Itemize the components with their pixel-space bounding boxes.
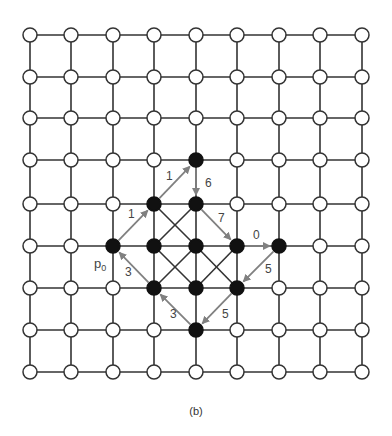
open-node bbox=[189, 70, 203, 84]
filled-node bbox=[189, 153, 203, 167]
open-node bbox=[64, 197, 78, 211]
open-node bbox=[355, 281, 369, 295]
open-node bbox=[355, 28, 369, 42]
open-node bbox=[355, 70, 369, 84]
open-node bbox=[106, 197, 120, 211]
open-node bbox=[64, 153, 78, 167]
open-node bbox=[23, 28, 37, 42]
open-node bbox=[355, 239, 369, 253]
filled-node bbox=[147, 281, 161, 295]
open-node bbox=[355, 111, 369, 125]
open-node bbox=[189, 365, 203, 379]
open-node bbox=[23, 197, 37, 211]
open-node bbox=[147, 70, 161, 84]
open-node bbox=[189, 28, 203, 42]
direction-label: 6 bbox=[205, 176, 212, 190]
filled-node bbox=[106, 239, 120, 253]
open-node bbox=[230, 323, 244, 337]
filled-node bbox=[230, 239, 244, 253]
chain-code-grid-diagram: 116705533p0 bbox=[0, 0, 392, 436]
direction-label: 5 bbox=[222, 307, 229, 321]
open-node bbox=[313, 239, 327, 253]
open-node bbox=[272, 197, 286, 211]
open-node bbox=[355, 153, 369, 167]
open-node bbox=[23, 239, 37, 253]
open-node bbox=[355, 323, 369, 337]
filled-node bbox=[147, 239, 161, 253]
open-node bbox=[147, 111, 161, 125]
open-node bbox=[313, 153, 327, 167]
open-node bbox=[313, 365, 327, 379]
open-node bbox=[230, 365, 244, 379]
open-node bbox=[23, 70, 37, 84]
open-node bbox=[106, 70, 120, 84]
open-node bbox=[23, 153, 37, 167]
open-node bbox=[23, 323, 37, 337]
filled-node bbox=[189, 323, 203, 337]
open-node bbox=[64, 365, 78, 379]
open-node bbox=[64, 111, 78, 125]
open-node bbox=[64, 281, 78, 295]
open-node bbox=[272, 281, 286, 295]
open-node bbox=[230, 153, 244, 167]
chain-arrow bbox=[202, 210, 231, 240]
filled-node bbox=[189, 239, 203, 253]
open-node bbox=[23, 281, 37, 295]
open-node bbox=[272, 365, 286, 379]
open-node bbox=[106, 153, 120, 167]
open-node bbox=[106, 281, 120, 295]
filled-node bbox=[189, 281, 203, 295]
open-node bbox=[23, 111, 37, 125]
open-node bbox=[147, 28, 161, 42]
open-node bbox=[230, 70, 244, 84]
filled-node bbox=[230, 281, 244, 295]
figure-caption: (b) bbox=[0, 405, 392, 417]
direction-label: 3 bbox=[170, 307, 177, 321]
open-node bbox=[189, 111, 203, 125]
direction-label: 3 bbox=[125, 265, 132, 279]
open-node bbox=[230, 28, 244, 42]
direction-label: 7 bbox=[218, 211, 225, 225]
open-node bbox=[106, 28, 120, 42]
direction-label: 0 bbox=[253, 228, 260, 242]
open-node bbox=[313, 70, 327, 84]
chain-arrow bbox=[160, 167, 190, 199]
open-node bbox=[313, 281, 327, 295]
open-node bbox=[272, 153, 286, 167]
open-node bbox=[313, 323, 327, 337]
open-node bbox=[230, 111, 244, 125]
open-node bbox=[64, 239, 78, 253]
filled-node bbox=[189, 197, 203, 211]
open-node bbox=[355, 365, 369, 379]
open-node bbox=[106, 111, 120, 125]
open-node bbox=[313, 197, 327, 211]
open-node bbox=[147, 153, 161, 167]
open-node bbox=[64, 28, 78, 42]
open-node bbox=[64, 70, 78, 84]
filled-node bbox=[147, 197, 161, 211]
open-node bbox=[147, 365, 161, 379]
direction-labels: 116705533p0 bbox=[94, 169, 272, 321]
open-node bbox=[272, 70, 286, 84]
open-node bbox=[313, 28, 327, 42]
open-node bbox=[64, 323, 78, 337]
direction-label: 1 bbox=[166, 169, 173, 183]
open-node bbox=[106, 323, 120, 337]
open-node bbox=[230, 197, 244, 211]
open-node bbox=[272, 323, 286, 337]
open-node bbox=[272, 28, 286, 42]
open-node bbox=[106, 365, 120, 379]
open-node bbox=[272, 111, 286, 125]
chain-arrow bbox=[119, 252, 148, 282]
grid-nodes bbox=[23, 28, 369, 379]
direction-label: 5 bbox=[265, 262, 272, 276]
filled-node bbox=[272, 239, 286, 253]
open-node bbox=[23, 365, 37, 379]
start-point-label: p0 bbox=[94, 256, 106, 273]
direction-label: 1 bbox=[128, 207, 135, 221]
open-node bbox=[313, 111, 327, 125]
open-node bbox=[355, 197, 369, 211]
open-node bbox=[147, 323, 161, 337]
